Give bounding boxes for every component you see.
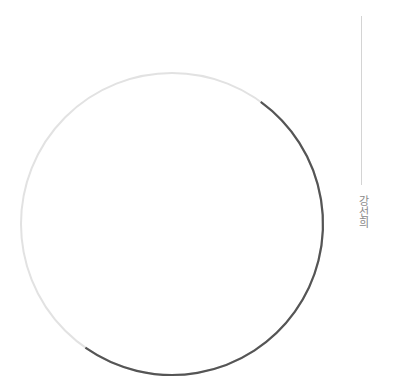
circle-base-ring [21,73,323,375]
circle-accent-arc [85,102,323,375]
circle-graphic [0,0,394,388]
